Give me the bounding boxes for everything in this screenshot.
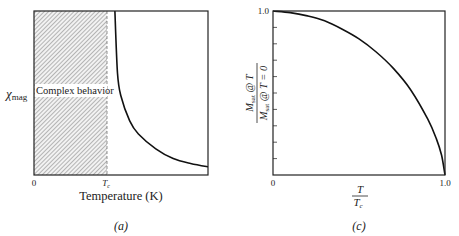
x-tick-tc-a: Tc <box>102 178 110 189</box>
x-tick-1-c: 1.0 <box>439 178 451 188</box>
svg-text:T: T <box>357 183 364 195</box>
svg-text:Tc: Tc <box>353 196 363 210</box>
panel-label-c: (c) <box>352 219 365 233</box>
plot-frame-c <box>273 11 445 175</box>
panel-label-a: (a) <box>114 219 128 233</box>
y-tick-1-c: 1.0 <box>258 6 270 16</box>
susceptibility-curve <box>115 11 208 167</box>
x-tick-0-a: 0 <box>32 178 37 188</box>
y-minor-ticks-c <box>273 27 277 158</box>
complex-behavior-label: Complex behavior <box>36 85 114 96</box>
svg-text:Msat @ T = 0: Msat @ T = 0 <box>258 65 271 121</box>
svg-text:Msat @ T: Msat @ T <box>244 73 257 112</box>
panel-a: Complex behavior χmag 0 Tc Temperature (… <box>4 11 208 233</box>
y-axis-label-c: Msat @ T Msat @ T = 0 <box>244 63 271 123</box>
y-axis-label-a: χmag <box>4 86 28 102</box>
figure: Complex behavior χmag 0 Tc Temperature (… <box>0 0 459 236</box>
magnetization-curve <box>273 11 445 175</box>
panel-c: 1.0 0 1.0 T Tc Msat @ T Msat @ T = 0 (c) <box>244 6 451 233</box>
x-tick-0-c: 0 <box>271 178 276 188</box>
x-axis-label-c: T Tc <box>352 183 368 210</box>
x-axis-label-a: Temperature (K) <box>79 189 162 203</box>
